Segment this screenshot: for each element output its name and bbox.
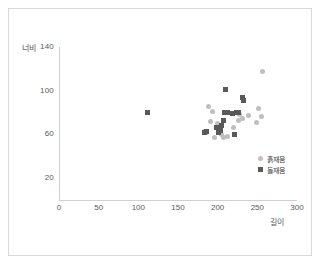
legend-label-soil: 흙재움 (267, 154, 285, 164)
data-point-square (222, 110, 227, 115)
data-point-square (230, 111, 235, 116)
data-point-square (214, 125, 219, 130)
x-tick-label: 150 (163, 203, 193, 212)
x-tick-label: 100 (123, 203, 153, 212)
legend-label-stone: 돌재움 (267, 165, 285, 175)
legend-item-soil[interactable]: 흙재움 (258, 153, 285, 164)
data-point-square (202, 130, 207, 135)
x-tick-label: 200 (203, 203, 233, 212)
y-tick-label: 20 (22, 173, 54, 182)
data-point-square (221, 118, 226, 123)
y-tick-label: 60 (22, 129, 54, 138)
y-tick-label: 100 (22, 86, 54, 95)
x-axis-line (59, 200, 297, 201)
data-point-circle (208, 119, 213, 124)
scatter-chart-figure: 너비 길이 2060100140 050100150200250300 흙재움 … (0, 0, 320, 264)
data-point-circle (254, 120, 259, 125)
x-tick-label: 0 (44, 203, 74, 212)
chart-legend: 흙재움 돌재움 (258, 153, 285, 175)
data-point-circle (236, 118, 241, 123)
x-tick-label: 50 (84, 203, 114, 212)
data-point-square (145, 110, 150, 115)
x-tick-label: 250 (242, 203, 272, 212)
x-axis-title: 길이 (270, 216, 284, 227)
legend-circle-marker-icon (258, 156, 263, 161)
data-point-square (241, 98, 246, 103)
y-tick-label: 140 (22, 42, 54, 51)
data-point-square (232, 132, 237, 137)
data-point-circle (210, 109, 215, 114)
data-point-square (223, 87, 228, 92)
legend-item-stone[interactable]: 돌재움 (258, 164, 285, 175)
data-point-circle (260, 69, 265, 74)
legend-square-marker-icon (258, 167, 263, 172)
x-tick-label: 300 (282, 203, 312, 212)
data-point-square (216, 130, 221, 135)
